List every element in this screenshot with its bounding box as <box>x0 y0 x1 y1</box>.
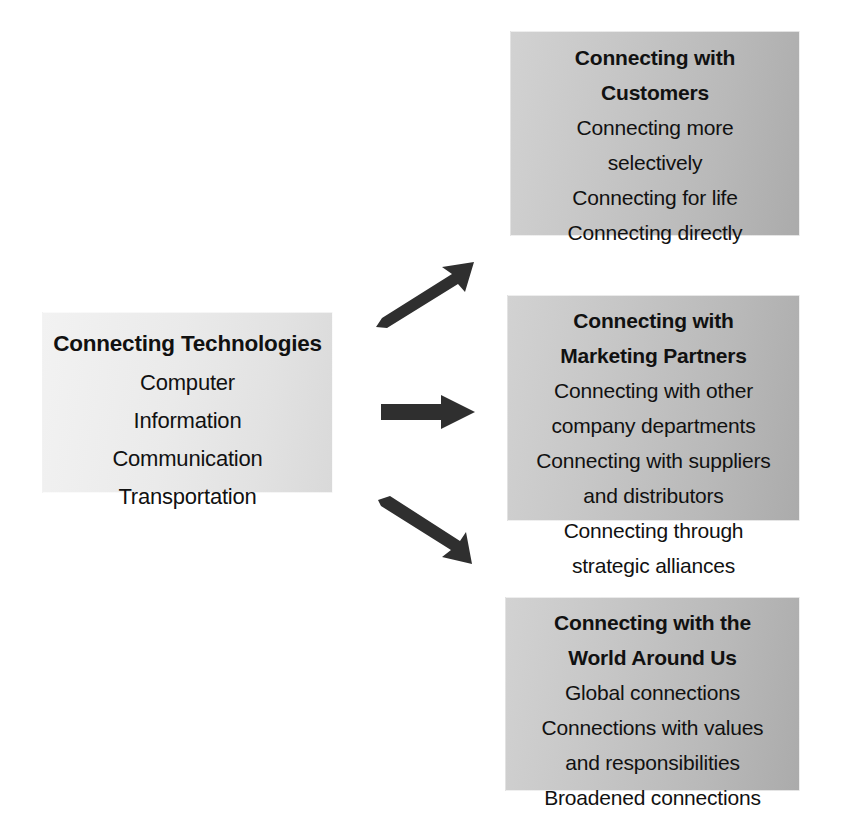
target-card-item-2-line-1: Connecting directly <box>568 221 743 245</box>
target-card-item-0-line-1: Connecting more <box>577 116 734 140</box>
source-card-item-0: Computer <box>140 370 235 395</box>
target-card-item-2-line-2: strategic alliances <box>572 554 735 578</box>
target-card-item-1-line-1: Connecting for life <box>572 186 737 210</box>
target-card-connecting-with-marketing-partners[interactable]: Connecting with Marketing Partners Conne… <box>507 295 800 521</box>
target-card-heading-line-2: Customers <box>601 81 709 105</box>
target-card-connecting-with-the-world-around-us[interactable]: Connecting with the World Around Us Glob… <box>505 597 800 791</box>
source-card-item-1: Information <box>134 408 242 433</box>
source-card-item-2: Communication <box>112 446 262 471</box>
target-card-heading-line-2: World Around Us <box>568 646 737 670</box>
target-card-item-0-line-1: Connecting with other <box>554 379 753 403</box>
source-card-connecting-technologies[interactable]: Connecting Technologies Computer Informa… <box>42 312 333 493</box>
target-card-connecting-with-customers[interactable]: Connecting with Customers Connecting mor… <box>510 31 800 236</box>
target-card-item-0-line-1: Global connections <box>565 681 740 705</box>
target-card-item-2-line-1: Broadened connections <box>544 786 760 810</box>
target-card-item-1-line-2: and distributors <box>583 484 723 508</box>
target-card-heading-line-1: Connecting with <box>573 309 733 333</box>
target-card-item-0-line-2: company departments <box>552 414 756 438</box>
arrow-up-right-icon <box>370 258 480 336</box>
source-card-heading: Connecting Technologies <box>53 331 322 357</box>
target-card-heading-line-1: Connecting with the <box>554 611 751 635</box>
target-card-item-1-line-1: Connecting with suppliers <box>536 449 770 473</box>
target-card-item-2-line-1: Connecting through <box>564 519 744 543</box>
target-card-item-1-line-1: Connections with values <box>542 716 764 740</box>
target-card-item-0-line-2: selectively <box>608 151 703 175</box>
target-card-item-1-line-2: and responsibilities <box>565 751 740 775</box>
arrow-down-right-icon <box>372 494 482 568</box>
arrow-right-icon <box>378 392 478 432</box>
source-card-item-3: Transportation <box>118 484 256 509</box>
target-card-heading-line-1: Connecting with <box>575 46 735 70</box>
target-card-heading-line-2: Marketing Partners <box>560 344 747 368</box>
connecting-technologies-diagram: Connecting Technologies Computer Informa… <box>0 0 856 839</box>
